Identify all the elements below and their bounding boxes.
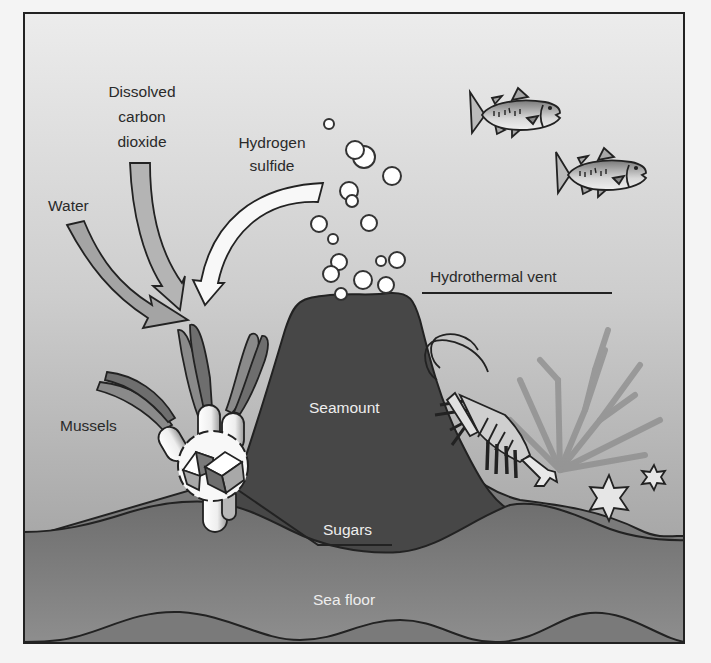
sugar-cubes-icon [183, 452, 244, 493]
hydrogen-sulfide-label: Hydrogen sulfide [222, 133, 322, 175]
sugars-label: Sugars [323, 520, 372, 539]
hydrogen-sulfide-label-line1: Hydrogen [222, 133, 322, 152]
hydrothermal-vent-label: Hydrothermal vent [430, 267, 557, 286]
dissolved-co2-label-line1: Dissolved [92, 82, 192, 101]
dissolved-co2-label-line2: carbon [92, 107, 192, 126]
sea-floor-label: Sea floor [313, 590, 375, 609]
hydrogen-sulfide-label-line2: sulfide [222, 156, 322, 175]
seamount-label: Seamount [309, 398, 380, 417]
hydrothermal-vent-diagram: Dissolved carbon dioxide Hydrogen sulfid… [0, 0, 711, 663]
mussels-label: Mussels [60, 416, 117, 435]
dissolved-co2-label: Dissolved carbon dioxide [92, 82, 192, 151]
water-label: Water [48, 196, 89, 215]
dissolved-co2-label-line3: dioxide [92, 132, 192, 151]
